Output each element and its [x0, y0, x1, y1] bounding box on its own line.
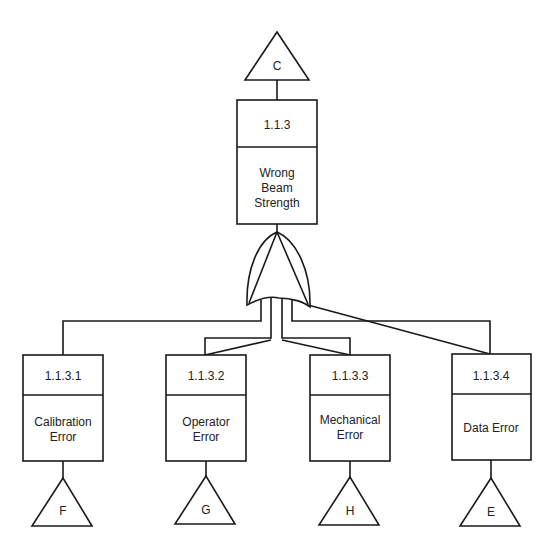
top-event-line-1: Wrong	[259, 166, 294, 180]
child-event-2: 1.1.3.2 Operator Error G	[166, 355, 246, 524]
child-label-line-1: Calibration	[34, 415, 91, 429]
child-id: 1.1.3.2	[188, 369, 225, 383]
child-id: 1.1.3.4	[473, 369, 510, 383]
child-label-line-1: Operator	[182, 415, 229, 429]
top-event-line-2: Beam	[261, 181, 292, 195]
child-label-line-2: Error	[337, 428, 364, 442]
child-event-3: 1.1.3.3 Mechanical Error H	[310, 355, 390, 525]
or-gate-icon	[247, 232, 310, 307]
transfer-label-g: G	[201, 503, 210, 517]
child-id: 1.1.3.3	[332, 369, 369, 383]
transfer-label-f: F	[59, 504, 66, 518]
gate-connectors	[63, 298, 490, 355]
transfer-label-e: E	[487, 505, 495, 519]
child-id: 1.1.3.1	[45, 369, 82, 383]
child-label-line-2: Error	[193, 430, 220, 444]
child-event-4: 1.1.3.4 Data Error E	[452, 354, 531, 526]
child-label-line-1: Mechanical	[320, 413, 381, 427]
transfer-label-h: H	[346, 504, 355, 518]
transfer-triangle-c: C	[245, 32, 309, 80]
transfer-label-c: C	[273, 59, 282, 73]
top-event-box: 1.1.3 Wrong Beam Strength	[237, 100, 317, 224]
child-label-line-2: Error	[50, 430, 77, 444]
child-label-line-1: Data Error	[463, 421, 518, 435]
fault-tree-diagram: C 1.1.3 Wrong Beam Strength 1.1.3.1 Cali…	[0, 0, 553, 548]
child-event-1: 1.1.3.1 Calibration Error F	[23, 355, 103, 526]
top-event-id: 1.1.3	[264, 118, 291, 132]
top-event-line-3: Strength	[254, 196, 299, 210]
